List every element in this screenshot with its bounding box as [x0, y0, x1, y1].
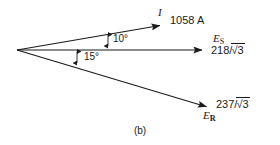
phasor-value-ER-numerator: 237: [216, 98, 234, 110]
phasor-line-receiving-voltage-ER: [17, 50, 207, 107]
phasor-value-ES-magnitude: 218/√3: [211, 45, 245, 56]
phasor-label-ER-base: E: [203, 109, 210, 121]
phasor-vector-canvas: [0, 0, 280, 145]
phasor-label-ER-subscript: R: [210, 114, 216, 123]
phasor-value-ES-numerator: 218: [211, 44, 229, 56]
angle-label-15-degrees: 15°: [84, 52, 99, 62]
phasor-label-ER-symbol: ER: [203, 110, 216, 123]
phasor-value-ER-denominator: √3: [236, 97, 249, 110]
figure-caption: (b): [0, 126, 280, 136]
phasor-label-I-symbol: I: [158, 7, 162, 18]
phasor-line-current-I: [17, 26, 160, 51]
phasor-value-I-magnitude: 1058 A: [170, 15, 204, 26]
angle-label-10-degrees: 10°: [113, 34, 128, 44]
phasor-value-ER-magnitude: 237/√3: [216, 99, 250, 110]
phasor-value-ES-denominator: √3: [231, 43, 244, 56]
phasor-label-ES-base: E: [213, 32, 220, 44]
phasor-diagram-figure: I 1058 A ES 218/√3 ER 237/√3 10° 15° (b): [0, 0, 280, 145]
